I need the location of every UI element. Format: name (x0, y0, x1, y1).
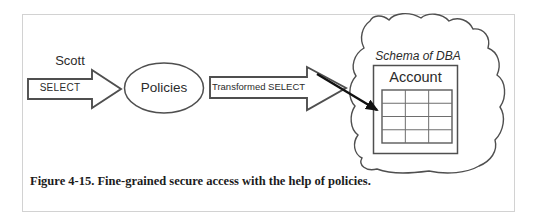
policies-label: Policies (124, 80, 204, 95)
schema-label: Schema of DBA (374, 49, 462, 63)
account-table-title: Account (373, 69, 458, 85)
user-label: Scott (42, 53, 98, 68)
figure-caption: Figure 4-15. Fine-grained secure access … (30, 174, 500, 189)
account-table-grid (382, 90, 452, 143)
select-arrow-label: SELECT (28, 82, 92, 93)
figure-page: Scott SELECT Policies Transformed SELECT… (0, 0, 537, 222)
transformed-arrow-label: Transformed SELECT (210, 81, 307, 92)
